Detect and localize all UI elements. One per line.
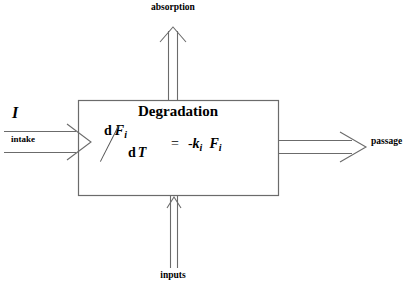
passage-arrow[interactable] xyxy=(279,132,366,162)
degradation-equation: dFi dT =-kiFi xyxy=(104,124,222,168)
inputs-label: inputs xyxy=(140,271,206,281)
diagram-canvas: Degradation dFi dT =-kiFi absorption inp… xyxy=(0,0,413,295)
denominator-variable: T xyxy=(138,145,147,160)
denominator-d: d xyxy=(128,145,136,160)
numerator-d: d xyxy=(104,123,112,138)
intake-symbol-label: I xyxy=(12,105,18,121)
equation-fraction: dFi dT xyxy=(104,124,166,168)
state-variable: F xyxy=(209,136,218,151)
intake-label: intake xyxy=(11,135,35,144)
equation-denominator: dT xyxy=(128,146,146,160)
state-subscript: i xyxy=(219,142,222,153)
equals-sign: = xyxy=(168,136,182,151)
rate-variable: k xyxy=(193,136,200,151)
absorption-label: absorption xyxy=(140,3,206,13)
numerator-subscript: i xyxy=(124,129,127,140)
box-title: Degradation xyxy=(78,104,278,119)
passage-label: passage xyxy=(371,137,402,147)
inputs-arrow[interactable] xyxy=(167,196,181,268)
rate-subscript: i xyxy=(200,142,203,153)
absorption-arrow[interactable] xyxy=(160,27,186,100)
equation-right-hand-side: =-kiFi xyxy=(168,137,222,155)
